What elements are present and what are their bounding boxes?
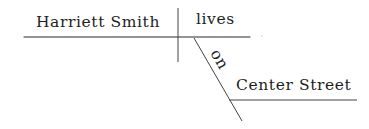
verb-text: lives <box>196 10 235 28</box>
subject-text: Harriett Smith <box>36 13 160 31</box>
preposition-text: on <box>207 46 233 73</box>
speck-mark <box>261 35 262 36</box>
sentence-diagram: Harriett Smith lives on Center Street <box>0 0 369 129</box>
object-text: Center Street <box>236 76 352 94</box>
